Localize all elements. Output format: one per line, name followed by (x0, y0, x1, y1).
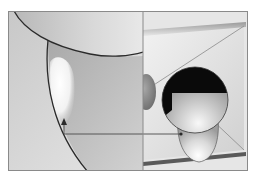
pointer-dot (179, 132, 182, 135)
diagram-canvas (0, 0, 256, 184)
diagram-illustration (0, 0, 256, 184)
left-panel (8, 11, 143, 172)
right-panel (136, 11, 248, 171)
